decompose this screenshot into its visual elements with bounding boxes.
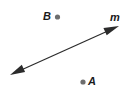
geometry-figure-canvas: B A m [0,0,129,100]
line-m-label: m [110,12,120,23]
point-a-label: A [88,76,96,87]
point-b-label: B [43,11,51,22]
arrowhead-right-icon [103,26,119,35]
arrowhead-left-icon [10,65,25,75]
point-b-dot [55,14,60,19]
point-a-dot [80,79,85,84]
line-m [17,29,111,71]
